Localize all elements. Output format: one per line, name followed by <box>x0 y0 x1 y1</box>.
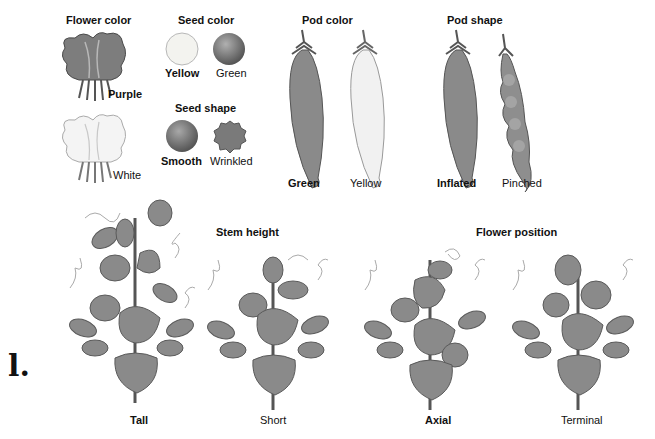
seed-color-dominant-label: Yellow <box>165 67 199 79</box>
flower-color-recessive-label: White <box>113 169 141 181</box>
tall-plant-icon <box>65 198 205 413</box>
flower-color-dominant-label: Purple <box>108 88 142 100</box>
pod-color-title: Pod color <box>302 14 353 26</box>
stem-height-recessive-label: Short <box>260 414 286 426</box>
green-seed-icon <box>212 32 246 66</box>
seed-shape-title: Seed shape <box>175 102 236 114</box>
flower-color-title: Flower color <box>66 14 131 26</box>
pod-color-recessive-label: Yellow <box>350 177 381 189</box>
seed-shape-recessive-label: Wrinkled <box>210 155 253 167</box>
pod-shape-title: Pod shape <box>447 14 503 26</box>
green-pod-icon <box>282 28 332 193</box>
pod-color-dominant-label: Green <box>288 177 320 189</box>
flower-position-title: Flower position <box>476 226 557 238</box>
flower-position-recessive-label: Terminal <box>561 414 603 426</box>
inflated-pod-icon <box>436 28 486 193</box>
short-plant-icon <box>203 250 333 415</box>
yellow-pod-icon <box>343 28 393 193</box>
seed-shape-dominant-label: Smooth <box>161 155 202 167</box>
stem-height-title: Stem height <box>216 226 279 238</box>
axial-flower-plant-icon <box>360 250 490 415</box>
pod-shape-dominant-label: Inflated <box>437 177 476 189</box>
stem-height-dominant-label: Tall <box>130 414 148 426</box>
terminal-flower-plant-icon <box>508 250 638 415</box>
pinched-pod-icon <box>495 32 545 192</box>
seed-color-title: Seed color <box>178 14 234 26</box>
seed-color-recessive-label: Green <box>216 67 247 79</box>
smooth-seed-icon <box>165 119 199 153</box>
flower-position-dominant-label: Axial <box>425 414 451 426</box>
yellow-seed-icon <box>165 32 199 66</box>
panel-marker: l. <box>8 348 30 383</box>
pod-shape-recessive-label: Pinched <box>502 177 542 189</box>
wrinkled-seed-icon <box>212 119 248 155</box>
